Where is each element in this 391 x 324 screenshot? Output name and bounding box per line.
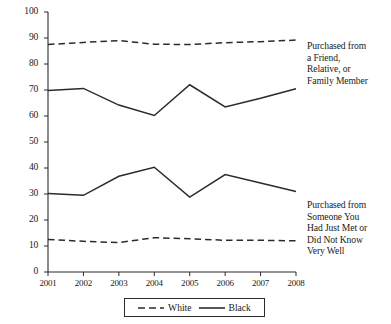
legend-item-white[interactable]: White [138, 303, 191, 313]
x-axis-tick-label: 2002 [63, 279, 103, 288]
legend-label-white: White [168, 303, 191, 313]
x-axis-tick-label: 2008 [276, 279, 316, 288]
x-axis-tick-label: 2007 [241, 279, 281, 288]
x-axis-tick-label: 2005 [170, 279, 210, 288]
annotation-friend-line-2: a Friend, [307, 52, 391, 64]
y-axis-tick-label: 80 [8, 59, 38, 69]
data-series-group [48, 40, 296, 243]
annotation-stranger-line-1: Purchased from [307, 199, 391, 211]
legend-swatch-dashed-icon [138, 304, 164, 312]
annotation-stranger-line-5: Very Well [307, 245, 391, 257]
y-axis-tick-label: 60 [8, 111, 38, 121]
legend-swatch-solid-icon [199, 304, 225, 312]
annotation-stranger-line-4: Did Not Know [307, 234, 391, 246]
x-axis-ticks [48, 272, 296, 276]
legend-item-black[interactable]: Black [199, 303, 251, 313]
legend-label-black: Black [229, 303, 251, 313]
chart-legend: White Black [124, 298, 265, 317]
y-axis-tick-label: 90 [8, 33, 38, 43]
y-axis-tick-label: 40 [8, 163, 38, 173]
series-line-white-3 [48, 238, 296, 243]
x-axis-tick-label: 2001 [28, 279, 68, 288]
y-axis-tick-label: 0 [8, 267, 38, 277]
series-line-black-2 [48, 167, 296, 197]
x-axis-tick-label: 2006 [205, 279, 245, 288]
y-axis-tick-label: 10 [8, 241, 38, 251]
annotation-stranger: Purchased from Someone You Had Just Met … [307, 199, 391, 257]
y-axis-tick-label: 70 [8, 85, 38, 95]
annotation-friend-line-3: Relative, or [307, 63, 391, 75]
y-axis-tick-label: 50 [8, 137, 38, 147]
annotation-stranger-line-3: Had Just Met or [307, 222, 391, 234]
annotation-friend-relative: Purchased from a Friend, Relative, or Fa… [307, 40, 391, 86]
annotation-friend-line-1: Purchased from [307, 40, 391, 52]
x-axis-tick-label: 2004 [134, 279, 174, 288]
y-axis-ticks [44, 12, 48, 272]
x-axis-tick-label: 2003 [99, 279, 139, 288]
series-line-white-0 [48, 40, 296, 44]
y-axis-tick-label: 30 [8, 189, 38, 199]
annotation-stranger-line-2: Someone You [307, 211, 391, 223]
y-axis-tick-label: 20 [8, 215, 38, 225]
annotation-friend-line-4: Family Member [307, 75, 391, 87]
y-axis-tick-label: 100 [8, 7, 38, 17]
series-line-black-1 [48, 85, 296, 116]
line-chart: 1009080706050403020100 20012002200320042… [0, 0, 391, 324]
